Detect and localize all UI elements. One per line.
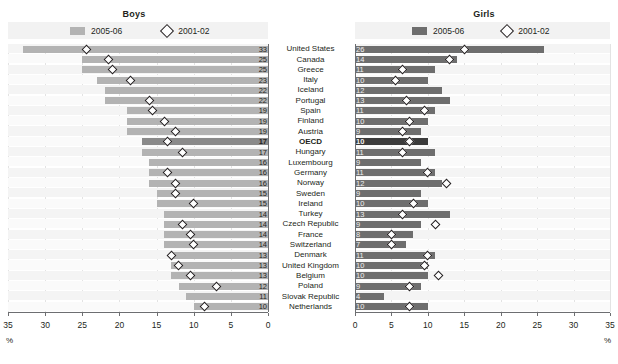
bar xyxy=(355,149,435,156)
girls-legend-marker-label: 2001-02 xyxy=(518,26,549,36)
bar-value-label: 19 xyxy=(259,127,267,136)
bar xyxy=(127,128,268,135)
bar-value-label: 16 xyxy=(259,158,267,167)
boys-legend-bar-item: 2005-06 xyxy=(70,26,122,36)
bar-value-label: 8 xyxy=(356,230,360,239)
bar-value-label: 14 xyxy=(259,210,267,219)
chart-row: 9 xyxy=(355,282,610,291)
bar-value-label: 13 xyxy=(259,261,267,270)
bar-value-label: 9 xyxy=(356,220,360,229)
chart-figure: Boys Girls 2005-06 2001-02 2005-06 2001-… xyxy=(0,0,618,364)
country-label: France xyxy=(268,230,353,239)
chart-row: 22 xyxy=(8,96,268,105)
country-label: Austria xyxy=(268,127,353,136)
axis-tick-mark xyxy=(537,313,538,316)
axis-tick-mark xyxy=(8,313,9,316)
chart-row: 4 xyxy=(355,292,610,301)
chart-row: 26 xyxy=(355,45,610,54)
axis-tick-label: 0 xyxy=(258,320,278,330)
bar xyxy=(355,138,428,145)
bar xyxy=(355,159,421,166)
bar-value-label: 19 xyxy=(259,117,267,126)
chart-row: 10 xyxy=(355,271,610,280)
bar xyxy=(164,231,268,238)
bar-value-label: 13 xyxy=(259,271,267,280)
axis-tick-label: 10 xyxy=(418,320,438,330)
chart-row: 13 xyxy=(8,261,268,270)
bar-value-label: 14 xyxy=(356,55,364,64)
bar xyxy=(171,252,268,259)
chart-row: 19 xyxy=(8,127,268,136)
chart-row: 12 xyxy=(355,179,610,188)
chart-row: 19 xyxy=(8,117,268,126)
bar-value-label: 7 xyxy=(356,240,360,249)
chart-row: 11 xyxy=(355,148,610,157)
chart-row: 17 xyxy=(8,148,268,157)
chart-row: 9 xyxy=(355,220,610,229)
bar-value-label: 10 xyxy=(356,137,364,146)
girls-plot-area: 2614111012131110910119111291013987111010… xyxy=(355,44,610,312)
girls-legend-marker-item: 2001-02 xyxy=(502,26,549,36)
bar xyxy=(164,211,268,218)
chart-row: 22 xyxy=(8,86,268,95)
chart-row: 10 xyxy=(8,302,268,311)
bar xyxy=(355,262,428,269)
chart-row: 11 xyxy=(355,251,610,260)
bar-value-label: 16 xyxy=(259,168,267,177)
bar xyxy=(355,190,421,197)
bar-value-label: 4 xyxy=(356,292,360,301)
chart-row: 15 xyxy=(8,189,268,198)
bar-value-label: 12 xyxy=(356,179,364,188)
bar-value-label: 26 xyxy=(356,45,364,54)
axis-line xyxy=(8,312,268,313)
bar-value-label: 11 xyxy=(356,148,364,157)
marker-diamond xyxy=(430,219,440,229)
axis-tick-label: 5 xyxy=(221,320,241,330)
bar xyxy=(149,159,268,166)
axis-line xyxy=(355,312,610,313)
chart-row: 10 xyxy=(355,117,610,126)
bar-value-label: 19 xyxy=(259,106,267,115)
chart-row: 13 xyxy=(355,210,610,219)
bar xyxy=(157,200,268,207)
chart-row: 11 xyxy=(355,65,610,74)
chart-row: 17 xyxy=(8,137,268,146)
chart-row: 16 xyxy=(8,168,268,177)
axis-tick-label: 15 xyxy=(454,320,474,330)
axis-tick-mark xyxy=(268,313,269,316)
axis-tick-mark xyxy=(464,313,465,316)
chart-row: 12 xyxy=(8,282,268,291)
diamond-icon xyxy=(160,23,174,37)
axis-tick-mark xyxy=(119,313,120,316)
boys-legend: 2005-06 2001-02 xyxy=(8,22,268,39)
chart-row: 19 xyxy=(8,106,268,115)
bar-value-label: 11 xyxy=(356,65,364,74)
axis-tick-mark xyxy=(157,313,158,316)
chart-row: 10 xyxy=(355,261,610,270)
chart-row: 14 xyxy=(8,240,268,249)
boys-legend-marker-item: 2001-02 xyxy=(162,26,209,36)
chart-row: 13 xyxy=(8,251,268,260)
bar-value-label: 12 xyxy=(259,282,267,291)
country-label: Germany xyxy=(268,168,353,177)
marker-diamond xyxy=(434,271,444,281)
axis-tick-mark xyxy=(355,313,356,316)
axis-tick-label: 5 xyxy=(381,320,401,330)
bar-value-label: 11 xyxy=(356,251,364,260)
bar-value-label: 10 xyxy=(356,76,364,85)
bar xyxy=(142,149,268,156)
bar-value-label: 14 xyxy=(259,230,267,239)
axis-tick-mark xyxy=(194,313,195,316)
axis-tick-label: 30 xyxy=(35,320,55,330)
country-label: Denmark xyxy=(268,250,353,259)
axis-tick-label: 35 xyxy=(600,320,618,330)
bar-value-label: 9 xyxy=(356,189,360,198)
chart-row: 10 xyxy=(355,199,610,208)
bar xyxy=(355,241,406,248)
bar xyxy=(355,221,421,228)
bar-value-label: 10 xyxy=(356,261,364,270)
diamond-icon xyxy=(500,23,514,37)
bar-value-label: 13 xyxy=(259,251,267,260)
country-label: Portugal xyxy=(268,96,353,105)
chart-row: 10 xyxy=(355,302,610,311)
